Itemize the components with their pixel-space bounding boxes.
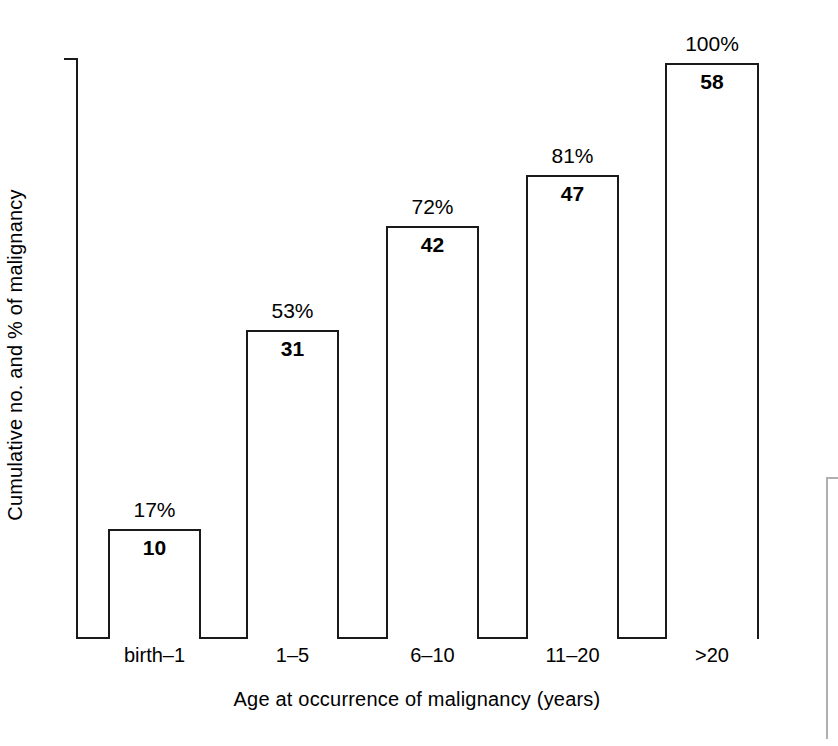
x-axis-tick-label: birth–1: [88, 644, 221, 667]
x-axis-tick-label: 11–20: [506, 644, 639, 667]
bar-percent-label: 53%: [246, 299, 339, 323]
bar-value-label: 58: [665, 70, 759, 94]
bar-percent-label: 100%: [665, 32, 759, 56]
bar: [386, 226, 479, 639]
bar: [246, 330, 339, 639]
bar: [526, 175, 619, 639]
bar-chart-figure: Cumulative no. and % of malignancy Age a…: [0, 0, 838, 746]
bar-value-label: 47: [526, 182, 619, 206]
x-axis-tick-label: >20: [645, 644, 779, 667]
plot-area: 17%10birth–153%311–572%426–1081%4711–201…: [0, 0, 838, 746]
bar-percent-label: 72%: [386, 195, 479, 219]
bar-value-label: 31: [246, 337, 339, 361]
x-axis-tick-label: 6–10: [366, 644, 499, 667]
bar-value-label: 42: [386, 233, 479, 257]
bar: [665, 63, 759, 639]
bar-value-label: 10: [108, 536, 201, 560]
x-axis-tick-label: 1–5: [226, 644, 359, 667]
scan-artifact-vertical-line: [826, 477, 828, 739]
scan-artifact-horizontal-line: [826, 477, 838, 479]
bar-percent-label: 81%: [526, 144, 619, 168]
bar-percent-label: 17%: [108, 498, 201, 522]
